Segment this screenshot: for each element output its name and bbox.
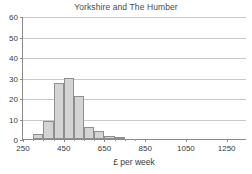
x-minor-tick-400 <box>54 139 55 141</box>
x-minor-tick-800 <box>135 139 136 141</box>
y-tick-label-60: 60 <box>9 13 18 22</box>
x-tick-label-850: 850 <box>138 144 151 153</box>
y-tick-label-10: 10 <box>9 115 18 124</box>
bar <box>54 83 64 139</box>
x-axis-label: £ per week <box>22 157 246 167</box>
x-minor-tick-600 <box>94 139 95 141</box>
x-minor-tick-750 <box>125 139 126 141</box>
x-minor-tick-350 <box>43 139 44 141</box>
x-tick-mark-450 <box>64 139 65 142</box>
plot-area: 0102030405060 25045065085010501250 <box>22 17 246 140</box>
bar <box>115 137 125 139</box>
x-tick-label-450: 450 <box>57 144 70 153</box>
bar <box>84 127 94 139</box>
x-tick-mark-850 <box>145 139 146 142</box>
x-tick-label-1050: 1050 <box>177 144 195 153</box>
gridline-y-30 <box>23 79 246 80</box>
x-tick-mark-1250 <box>227 139 228 142</box>
x-tick-label-1250: 1250 <box>218 144 236 153</box>
y-tick-mark-60 <box>20 17 23 18</box>
bar <box>43 121 53 139</box>
x-tick-mark-250 <box>23 139 24 142</box>
y-tick-mark-10 <box>20 120 23 121</box>
bar <box>33 134 43 139</box>
y-tick-label-40: 40 <box>9 54 18 63</box>
x-minor-tick-500 <box>74 139 75 141</box>
y-tick-mark-20 <box>20 99 23 100</box>
y-tick-label-20: 20 <box>9 95 18 104</box>
y-tick-label-50: 50 <box>9 33 18 42</box>
bar <box>64 78 74 139</box>
x-minor-tick-700 <box>115 139 116 141</box>
y-tick-mark-50 <box>20 38 23 39</box>
gridline-y-50 <box>23 38 246 39</box>
gridline-y-40 <box>23 58 246 59</box>
bar <box>94 131 104 139</box>
x-minor-tick-300 <box>33 139 34 141</box>
y-tick-label-30: 30 <box>9 74 18 83</box>
y-tick-mark-30 <box>20 79 23 80</box>
x-tick-mark-1050 <box>186 139 187 142</box>
y-tick-mark-40 <box>20 58 23 59</box>
chart-title: Yorkshire and The Humber <box>0 2 252 12</box>
chart-container: Yorkshire and The Humber 0102030405060 2… <box>0 0 252 174</box>
x-tick-mark-650 <box>104 139 105 142</box>
x-tick-label-650: 650 <box>98 144 111 153</box>
x-tick-label-250: 250 <box>16 144 29 153</box>
gridline-y-60 <box>23 17 246 18</box>
bar <box>74 96 84 139</box>
x-minor-tick-550 <box>84 139 85 141</box>
bar <box>104 136 114 139</box>
